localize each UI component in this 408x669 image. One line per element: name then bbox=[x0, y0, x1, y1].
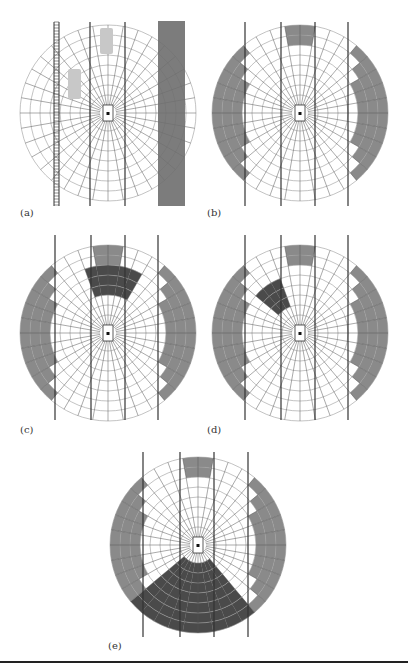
panel-b bbox=[212, 25, 388, 201]
panel-label-e: (e) bbox=[108, 640, 122, 651]
panel-label-c: (c) bbox=[20, 424, 33, 435]
panel-e bbox=[110, 457, 286, 633]
bottom-rule bbox=[0, 661, 408, 663]
panel-d bbox=[212, 245, 388, 421]
panel-label-d: (d) bbox=[207, 424, 221, 435]
roadside-vegetation bbox=[158, 21, 185, 206]
vehicle-left bbox=[68, 69, 81, 99]
panel-label-b: (b) bbox=[207, 207, 221, 218]
figure-canvas bbox=[0, 0, 408, 669]
panel-c bbox=[20, 245, 196, 421]
vehicle-ahead bbox=[100, 28, 113, 54]
panel-label-a: (a) bbox=[20, 207, 34, 218]
